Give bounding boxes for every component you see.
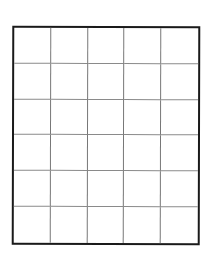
grid-cell: [124, 100, 161, 136]
grid-cell: [14, 171, 51, 207]
grid-cell: [124, 136, 161, 172]
grid-cell: [88, 135, 125, 171]
grid-cell: [14, 207, 51, 243]
grid-cell: [87, 171, 124, 207]
grid-cell: [124, 207, 161, 243]
grid-cell: [124, 171, 161, 207]
grid-cell: [161, 136, 198, 172]
grid-cell: [87, 207, 124, 243]
grid-cell: [88, 64, 125, 100]
grid-cell: [51, 64, 88, 100]
grid-cell: [51, 171, 88, 207]
grid-cell: [51, 100, 88, 136]
empty-grid: [12, 26, 201, 245]
grid-cell: [88, 28, 125, 64]
grid-cell: [161, 64, 198, 100]
grid-cell: [51, 28, 88, 64]
grid-cell: [161, 207, 198, 243]
grid-cell: [51, 207, 88, 243]
grid-cell: [14, 28, 51, 64]
grid-cell: [161, 171, 198, 207]
grid-cell: [14, 135, 51, 171]
grid-cell: [14, 99, 51, 135]
grid-cell: [14, 64, 51, 100]
grid-cell: [124, 64, 161, 100]
grid-cell: [88, 100, 125, 136]
grid-cell: [51, 135, 88, 171]
grid-cell: [161, 100, 198, 136]
grid-cell: [161, 28, 198, 64]
grid-cell: [125, 28, 162, 64]
